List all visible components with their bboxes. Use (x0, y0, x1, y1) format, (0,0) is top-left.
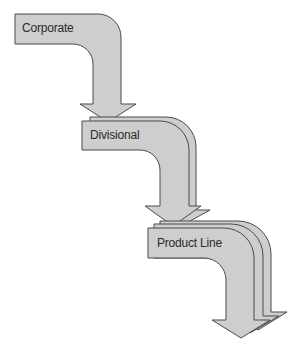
corporate-label: Corporate (22, 21, 74, 35)
divisional-label: Divisional (90, 128, 139, 142)
product-line-label: Product Line (157, 236, 222, 250)
cascade-diagram (0, 0, 303, 355)
